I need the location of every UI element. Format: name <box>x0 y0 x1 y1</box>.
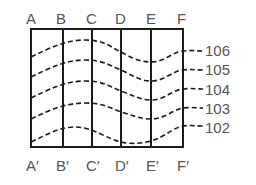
top-label-f: F <box>177 10 186 27</box>
curve-label-102: 102 <box>205 119 230 136</box>
top-label-a: A <box>26 10 36 27</box>
contour-103 <box>31 103 203 119</box>
bottom-label-d-prime: D′ <box>115 157 129 174</box>
bottom-label-b-prime: B′ <box>56 157 69 174</box>
curve-label-103: 103 <box>205 100 230 117</box>
contour-104 <box>31 81 203 100</box>
top-label-c: C <box>86 10 97 27</box>
bottom-label-c-prime: C′ <box>86 157 100 174</box>
contour-102 <box>31 126 203 144</box>
contour-105 <box>31 60 203 81</box>
top-label-d: D <box>115 10 126 27</box>
section-diagram: A B C D E F 106 105 104 103 102 A′ B′ C′… <box>0 0 256 185</box>
curve-label-105: 105 <box>205 61 230 78</box>
curve-label-106: 106 <box>205 42 230 59</box>
top-label-e: E <box>146 10 156 27</box>
top-label-b: B <box>56 10 66 27</box>
bottom-label-e-prime: E′ <box>146 157 159 174</box>
curve-label-104: 104 <box>205 81 230 98</box>
contour-106 <box>31 40 203 62</box>
bottom-label-a-prime: A′ <box>26 157 39 174</box>
bottom-label-f-prime: F′ <box>177 157 189 174</box>
